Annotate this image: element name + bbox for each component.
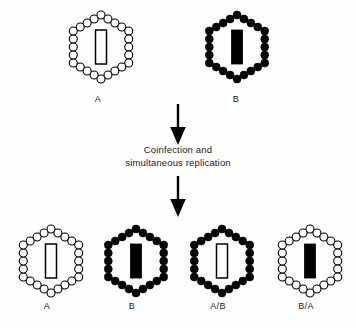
figure-canvas: A B Coinfection and simultaneous replica… [0, 0, 356, 328]
process-line-1: Coinfection and [0, 144, 356, 157]
process-description: Coinfection and simultaneous replication [0, 144, 356, 169]
progeny-particle-a [12, 222, 90, 300]
progeny-particle-ab [183, 222, 261, 300]
progeny-particle-b [97, 222, 175, 300]
progeny-label-ab: A/B [198, 301, 238, 311]
parent-particle-b [198, 8, 276, 86]
downward-arrow-bottom [164, 176, 192, 218]
parent-label-a: A [78, 94, 118, 104]
progeny-label-b: B [112, 301, 152, 311]
parent-label-b: B [216, 94, 256, 104]
parent-particle-a [62, 8, 140, 86]
downward-arrow-top [164, 104, 192, 146]
progeny-label-a: A [27, 301, 67, 311]
process-line-2: simultaneous replication [0, 157, 356, 170]
progeny-label-ba: B/A [286, 301, 326, 311]
progeny-particle-ba [271, 222, 349, 300]
